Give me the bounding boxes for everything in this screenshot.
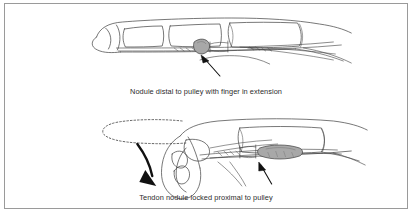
tendon-nodule-extension — [194, 39, 210, 54]
dip-crease — [116, 25, 120, 50]
proximal-phalanx — [228, 22, 301, 47]
volar-pulp-curl — [176, 148, 186, 192]
flexed-finger-outer — [161, 136, 200, 199]
caption-extension: Nodule distal to pulley with finger in e… — [5, 87, 407, 96]
pulley-band-top — [210, 42, 228, 44]
leader-line-b — [230, 162, 246, 186]
tendon-strand-a — [210, 140, 272, 148]
nodule-pointer-arrow — [259, 162, 272, 184]
nodule-pointer-arrow — [201, 55, 220, 76]
fingertip-contour — [92, 37, 120, 53]
ghost-extended-finger-outline — [103, 120, 186, 144]
figure-frame: Nodule distal to pulley with finger in e… — [4, 3, 408, 209]
panel-finger-flexion: Tendon nodule locked proximal to pulley — [5, 108, 407, 209]
distal-phalanx — [123, 26, 164, 47]
tendon-strand-a — [240, 47, 336, 54]
panel-finger-extension: Nodule distal to pulley with finger in e… — [5, 4, 407, 108]
flexion-motion-arrow — [137, 144, 156, 186]
hand-crease — [300, 24, 303, 47]
dorsal-contour — [180, 119, 367, 136]
tendon-nodule-flexion — [258, 145, 303, 159]
flexed-finger-inner — [188, 137, 200, 168]
volar-skin-line — [200, 56, 270, 64]
nail-crease — [106, 28, 111, 49]
caption-flexion: Tendon nodule locked proximal to pulley — [5, 193, 407, 202]
